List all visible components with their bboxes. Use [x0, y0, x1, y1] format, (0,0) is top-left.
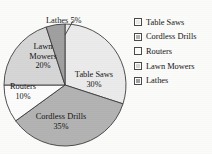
legend-label-lathes: Lathes	[146, 76, 168, 85]
legend-item-lawn-mowers: Lawn Mowers	[134, 59, 210, 74]
slice-label-lawn-mowers-name2: Mowers	[20, 52, 66, 62]
legend-label-lawn-mowers: Lawn Mowers	[146, 62, 195, 71]
legend-item-lathes: Lathes	[134, 73, 210, 88]
legend-item-cordless-drills: Cordless Drills	[134, 30, 210, 45]
slice-label-routers-name: Routers	[10, 82, 36, 91]
slice-label-cordless-drills-name: Cordless Drills	[36, 112, 86, 121]
legend-swatch-lawn-mowers	[134, 62, 142, 70]
slice-label-table-saws-name: Table Saws	[75, 70, 113, 79]
slice-label-routers-pct: 10%	[1, 92, 45, 102]
slice-label-routers: Routers 10%	[1, 82, 45, 101]
slice-label-lawn-mowers-name: Lawn	[33, 42, 52, 51]
legend-swatch-routers	[134, 47, 142, 55]
legend-swatch-cordless-drills	[134, 33, 142, 41]
slice-label-table-saws: Table Saws 30%	[68, 70, 120, 89]
legend-item-table-saws: Table Saws	[134, 15, 210, 30]
legend-item-routers: Routers	[134, 44, 210, 59]
legend-swatch-lathes	[134, 77, 142, 85]
chart-legend: Table SawsCordless DrillsRoutersLawn Mow…	[134, 15, 210, 88]
pie-plot-area: Lathes 5% Table Saws 30% Cordless Drills…	[2, 8, 130, 154]
chart-title: DISTRIBUTION OF PRODUCT SALES	[0, 0, 212, 2]
legend-swatch-table-saws	[134, 18, 142, 26]
slice-label-table-saws-pct: 30%	[68, 80, 120, 90]
legend-label-cordless-drills: Cordless Drills	[146, 32, 196, 41]
pie-chart-figure: DISTRIBUTION OF PRODUCT SALES Lathes 5% …	[0, 0, 212, 154]
legend-label-routers: Routers	[146, 47, 172, 56]
slice-label-lawn-mowers: Lawn Mowers 20%	[20, 42, 66, 71]
slice-label-lawn-mowers-pct: 20%	[20, 61, 66, 71]
slice-label-cordless-drills: Cordless Drills 35%	[24, 112, 98, 131]
slice-callout-lathes: Lathes 5%	[46, 16, 82, 25]
slice-label-cordless-drills-pct: 35%	[24, 122, 98, 132]
legend-label-table-saws: Table Saws	[146, 18, 184, 27]
